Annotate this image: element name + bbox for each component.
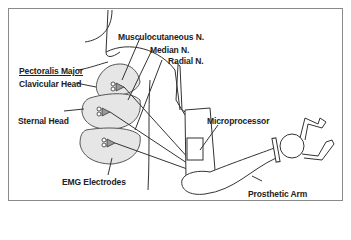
label-median-nerve: Median N. <box>150 46 189 55</box>
sternal-head-lower-region <box>80 128 140 164</box>
label-prosthetic-arm: Prosthetic Arm <box>248 190 307 199</box>
sternal-head-upper-region <box>82 94 140 129</box>
label-clavicular-head: Clavicular Head <box>19 80 81 89</box>
gripper-upper <box>300 118 326 140</box>
label-microprocessor: Microprocessor <box>207 117 269 126</box>
label-musculocutaneous-nerve: Musculocutaneous N. <box>118 33 204 42</box>
label-pectoralis-major: Pectoralis Major <box>19 67 83 76</box>
label-sternal-head: Sternal Head <box>18 117 69 126</box>
label-radial-nerve: Radial N. <box>168 57 203 66</box>
gripper-lower <box>302 140 334 160</box>
clavicular-head-region <box>96 64 140 96</box>
label-emg-electrodes: EMG Electrodes <box>62 178 126 187</box>
